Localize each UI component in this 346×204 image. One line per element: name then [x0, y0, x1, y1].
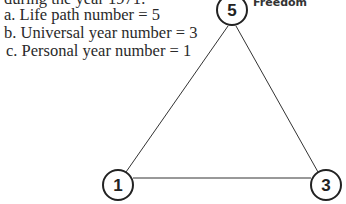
node-bottom-left-number: 1 [113, 176, 122, 195]
node-top-number: 5 [227, 1, 236, 20]
node-bottom-left: 1 [103, 170, 133, 200]
node-top-label: Freedom [253, 0, 307, 9]
node-bottom-right: 3 [311, 170, 341, 200]
node-bottom-right-number: 3 [321, 176, 330, 195]
edge-top-right [236, 26, 318, 172]
node-top: 5 [217, 0, 247, 25]
edge-top-left [126, 26, 228, 172]
number-triangle-diagram: 5 1 3 [0, 0, 346, 204]
